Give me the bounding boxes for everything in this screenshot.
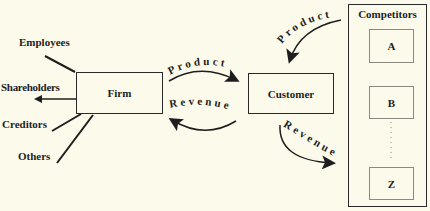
revenue-arrow-customer-to-firm: Revenue (168, 95, 236, 131)
revenue-flow-label: Revenue (168, 95, 233, 112)
stakeholder-creditors-label: Creditors (2, 119, 47, 130)
competitors-title: Competitors (349, 8, 426, 20)
firm-box: Firm (76, 72, 163, 114)
competitor-product-label: Product (274, 7, 332, 45)
product-arrow-competitor-to-customer: Product (274, 7, 341, 60)
stakeholder-employees-label: Employees (19, 37, 70, 48)
customer-box: Customer (248, 73, 334, 114)
stakeholder-diagram: Product Revenue Product Revenue Employee… (0, 0, 430, 211)
svg-text:Product: Product (274, 7, 332, 45)
stakeholder-others-label: Others (18, 151, 50, 162)
competitors-box: Competitors A B Z (348, 4, 427, 207)
competitor-z-box: Z (369, 167, 414, 200)
competitor-b-label: B (388, 97, 395, 109)
others-line (57, 115, 93, 163)
employees-line (45, 56, 75, 72)
competitor-a-box: A (369, 29, 414, 63)
customer-label: Customer (268, 88, 314, 100)
creditors-line (52, 114, 81, 131)
competitor-b-box: B (369, 86, 414, 119)
competitor-revenue-label: Revenue (282, 117, 341, 159)
competitor-a-label: A (388, 40, 396, 52)
revenue-arrow-customer-to-competitor: Revenue (280, 117, 341, 163)
product-arrow-firm-to-customer: Product (166, 55, 236, 81)
firm-label: Firm (108, 87, 132, 99)
svg-text:Revenue: Revenue (168, 95, 233, 112)
competitor-z-label: Z (388, 178, 395, 190)
svg-text:Revenue: Revenue (282, 117, 341, 159)
stakeholder-shareholders-label: Shareholders (1, 82, 60, 93)
